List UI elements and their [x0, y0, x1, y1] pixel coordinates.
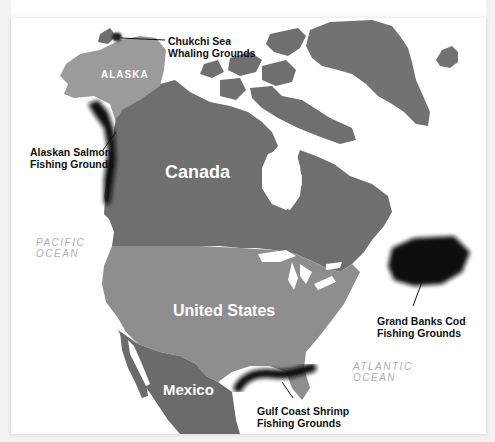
grand-banks-cod-zone [388, 236, 470, 286]
label-pacific-ocean: PACIFIC OCEAN [36, 237, 85, 259]
chukchi-line-1: Chukchi Sea [168, 35, 256, 47]
pacific-line-2: OCEAN [36, 248, 85, 259]
atlantic-line-1: ATLANTIC [353, 361, 413, 372]
salmon-line-2: Fishing Grounds [30, 158, 114, 170]
canada-shape [104, 80, 392, 272]
chukchi-line-2: Whaling Grounds [168, 47, 256, 59]
salmon-line-1: Alaskan Salmon [30, 146, 114, 158]
atlantic-line-2: OCEAN [353, 372, 413, 383]
pacific-line-1: PACIFIC [36, 237, 85, 248]
greenland-shape [306, 20, 430, 126]
cod-line-1: Grand Banks Cod [377, 315, 466, 327]
iceland-shape [436, 46, 458, 68]
label-alaska: ALASKA [101, 69, 149, 80]
map-graphic [0, 0, 495, 442]
label-canada: Canada [165, 162, 230, 183]
label-mexico: Mexico [163, 381, 214, 398]
shrimp-line-1: Gulf Coast Shrimp [257, 405, 349, 417]
shrimp-line-2: Fishing Grounds [257, 417, 349, 429]
cod-line-2: Fishing Grounds [377, 327, 466, 339]
label-grand-banks-cod: Grand Banks Cod Fishing Grounds [377, 315, 466, 339]
label-alaskan-salmon: Alaskan Salmon Fishing Grounds [30, 146, 114, 170]
label-gulf-coast-shrimp: Gulf Coast Shrimp Fishing Grounds [257, 405, 349, 429]
label-chukchi-whaling: Chukchi Sea Whaling Grounds [168, 35, 256, 59]
label-atlantic-ocean: ATLANTIC OCEAN [353, 361, 413, 383]
label-united-states: United States [173, 302, 275, 320]
chukchi-whaling-zone [112, 33, 122, 42]
